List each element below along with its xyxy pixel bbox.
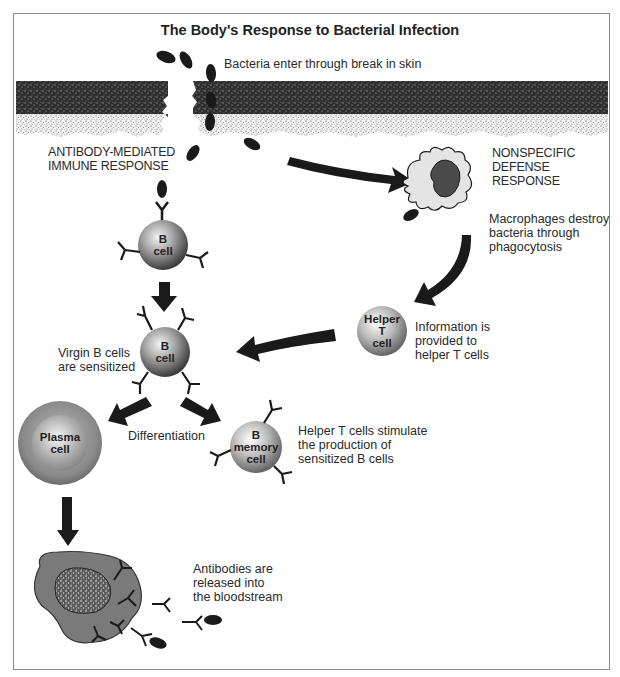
bacterium [242,135,263,153]
bacterium [155,48,178,65]
cell-label-b-mid: B cell [145,340,185,364]
label-helper-stimulate: Helper T cells stimulate the production … [298,424,427,466]
label-bacteria-enter: Bacteria enter through break in skin [224,57,421,71]
diagram-canvas [0,0,620,677]
arrow-to-helper-t [414,235,471,306]
cell-label-plasma: Plasma cell [35,431,85,455]
diagram-title: The Body's Response to Bacterial Infecti… [0,22,620,38]
bacterium [157,180,167,198]
label-nonspecific: NONSPECIFIC DEFENSE RESPONSE [492,146,575,188]
arrow-down-1 [151,282,177,312]
arrow-to-memory [180,397,221,426]
bacterium [184,143,203,163]
cell-label-helper-t: Helper T cell [357,313,407,349]
cell-label-b-memory: B memory cell [226,429,286,465]
arrow-down-2 [57,497,79,546]
macrophage [401,147,471,223]
bacterium [401,206,421,223]
bacterium [177,49,195,70]
label-macrophages: Macrophages destroy bacteria through pha… [489,212,609,254]
arrow-to-plasma [108,397,152,426]
bacterium [205,64,217,83]
label-information: Information is provided to helper T cell… [415,320,490,362]
bacterium [148,635,168,651]
bacterium [204,615,222,625]
skin-layer [16,81,608,137]
label-antibody-mediated: ANTIBODY-MEDIATED IMMUNE RESPONSE [48,145,175,173]
cell-label-b-top: B cell [143,233,183,257]
label-antibodies-released: Antibodies are released into the bloodst… [193,562,283,604]
arrow-to-b-cell [236,329,336,362]
arrow-to-macrophage [287,157,414,193]
label-differentiation: Differentiation [128,429,205,443]
label-virgin: Virgin B cells are sensitized [58,346,135,374]
